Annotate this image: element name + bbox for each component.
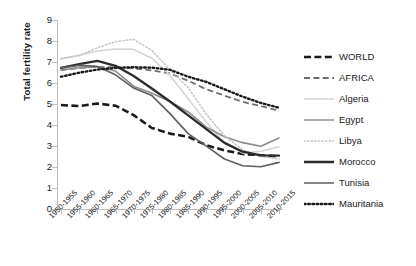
y-axis-tick [52,41,57,42]
y-axis-tick [52,104,57,105]
y-axis-tick-labels: 0123456789 [30,20,52,210]
legend-item-morocco[interactable]: Morocco [304,151,416,172]
legend-item-libya[interactable]: Libya [304,130,416,151]
chart-legend: WORLDAFRICAAlgeriaEgyptLibyaMoroccoTunis… [304,46,416,214]
legend-swatch-tunisia [304,177,334,189]
legend-swatch-world [304,51,334,63]
legend-label: Mauritania [339,198,383,209]
legend-swatch-africa [304,72,334,84]
legend-swatch-morocco [304,156,334,168]
y-axis-tick [52,62,57,63]
legend-label: Algeria [339,93,369,104]
y-axis-tick [52,188,57,189]
legend-label: WORLD [339,51,374,62]
series-lines [57,20,283,210]
y-axis-tick [52,146,57,147]
fertility-rate-chart: Total fertility rate 0123456789 1950-195… [0,0,416,266]
legend-label: Morocco [339,156,375,167]
y-axis-tick [52,83,57,84]
x-axis-tick-labels: 1950-19551955-19601960-19651965-19701970… [0,212,300,266]
legend-swatch-egypt [304,114,334,126]
legend-item-tunisia[interactable]: Tunisia [304,172,416,193]
series-line-world [61,104,279,157]
legend-swatch-libya [304,135,334,147]
legend-swatch-mauritania [304,198,334,210]
legend-label: Egypt [339,114,363,125]
plot-area [57,20,283,210]
legend-item-africa[interactable]: AFRICA [304,67,416,88]
legend-item-algeria[interactable]: Algeria [304,88,416,109]
legend-label: AFRICA [339,72,374,83]
legend-label: Libya [339,135,362,146]
y-axis-tick [52,125,57,126]
legend-label: Tunisia [339,177,369,188]
legend-item-egypt[interactable]: Egypt [304,109,416,130]
legend-item-world[interactable]: WORLD [304,46,416,67]
y-axis-tick [52,20,57,21]
legend-swatch-algeria [304,93,334,105]
y-axis-tick [52,167,57,168]
legend-item-mauritania[interactable]: Mauritania [304,193,416,214]
series-line-libya [61,39,279,159]
